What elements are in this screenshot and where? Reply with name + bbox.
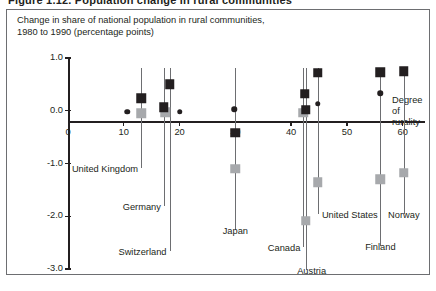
x-axis-tick [179, 121, 180, 126]
data-point-marker [231, 106, 237, 112]
y-axis-tick [65, 268, 71, 269]
data-point-marker [315, 101, 321, 107]
data-point-marker [231, 164, 241, 174]
x-axis-tick [290, 121, 291, 126]
data-point-marker [165, 80, 175, 90]
data-point-marker [376, 67, 386, 77]
annotation-leader-line [235, 68, 236, 230]
country-label: United States [322, 210, 378, 220]
x-axis-zero-line [68, 121, 425, 123]
annotation-leader-line [170, 68, 171, 251]
data-point-marker [301, 105, 311, 115]
annotation-leader-line [318, 68, 319, 214]
y-axis-tick [65, 163, 71, 164]
x-axis-tick-label: 60 [398, 127, 408, 137]
annotation-leader-line [404, 68, 405, 214]
data-point-marker [399, 168, 409, 178]
data-point-marker [300, 89, 310, 99]
country-label: Finland [365, 242, 396, 252]
y-axis-tick-label: -3.0 [7, 263, 63, 273]
country-label: Germany [123, 202, 161, 212]
y-axis-tick-label: 0.0 [7, 105, 63, 115]
y-axis-tick [65, 57, 71, 58]
x-axis-tick-label: 40 [286, 127, 296, 137]
data-point-marker [136, 93, 146, 103]
x-axis-tick [346, 121, 347, 126]
data-point-marker [301, 216, 311, 226]
y-axis-tick [65, 110, 71, 111]
x-axis-tick [123, 121, 124, 126]
data-point-marker [159, 102, 169, 112]
y-axis-tick-label: -2.0 [7, 210, 63, 220]
x-axis-tick-label: 10 [119, 127, 129, 137]
country-label: Canada [268, 243, 301, 253]
y-axis-tick-label: -1.0 [7, 158, 63, 168]
x-axis-title: Degree of rurality [392, 95, 436, 128]
x-axis-tick-label: 0 [65, 127, 70, 137]
data-point-marker [313, 68, 323, 78]
country-label: United Kingdom [72, 164, 138, 174]
country-label: Austria [297, 266, 326, 276]
data-point-marker [136, 109, 146, 119]
cropped-figure-caption: Figure 1.12. Population change in rural … [8, 0, 292, 6]
data-point-marker [399, 66, 409, 76]
country-label: Japan [223, 226, 248, 236]
y-axis-tick-label: 1.0 [7, 52, 63, 62]
country-label: Norway [388, 210, 420, 220]
data-point-marker [177, 109, 183, 115]
y-axis-tick [65, 216, 71, 217]
data-point-marker [231, 128, 241, 138]
data-point-marker [376, 175, 386, 185]
country-label: Switzerland [118, 247, 166, 257]
data-point-marker [313, 178, 323, 188]
x-axis-tick-label: 50 [342, 127, 352, 137]
figure-frame: Change in share of national population i… [6, 9, 430, 275]
x-axis-tick-label: 20 [174, 127, 184, 137]
data-point-marker [378, 91, 384, 97]
data-point-marker [124, 109, 130, 115]
plot-area: Degree of rurality 1.00.0-1.0-2.0-3.0010… [7, 10, 429, 274]
